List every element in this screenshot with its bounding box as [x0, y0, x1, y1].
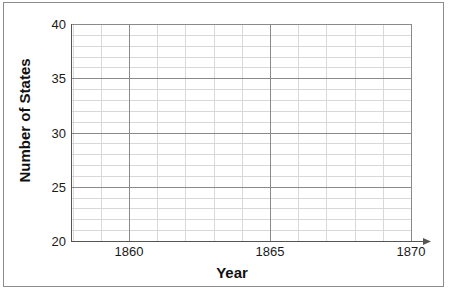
chart-page: 4035302520 186018651870 Number of States… — [0, 0, 459, 291]
x-tick-label: 1860 — [94, 245, 164, 258]
x-axis-title: Year — [151, 264, 313, 281]
x-axis-tick-labels: 186018651870 — [0, 0, 459, 291]
y-axis-title: Number of States — [16, 31, 33, 211]
x-tick-label: 1870 — [376, 245, 446, 258]
x-tick-label: 1865 — [235, 245, 305, 258]
